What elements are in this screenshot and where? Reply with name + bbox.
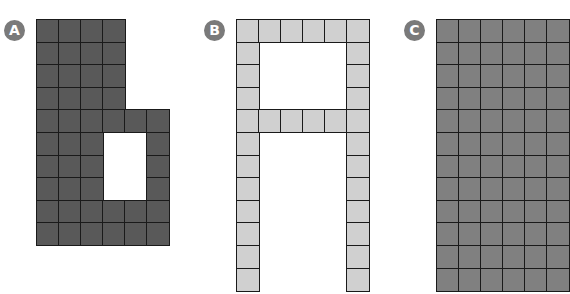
grid-cell <box>436 132 460 156</box>
grid-cell <box>502 200 526 224</box>
grid-cell <box>80 87 104 111</box>
grid-cell <box>546 268 570 292</box>
grid-cell <box>58 155 82 179</box>
grid-cell <box>302 19 326 43</box>
grid-cell <box>436 268 460 292</box>
grid-cell <box>458 19 482 43</box>
grid-cell <box>36 19 60 43</box>
grid-cell <box>480 109 504 133</box>
grid-cell <box>502 64 526 88</box>
grid-cell <box>502 19 526 43</box>
grid-cell <box>80 19 104 43</box>
grid-cell <box>546 132 570 156</box>
grid-cell <box>480 155 504 179</box>
grid-cell <box>346 222 370 246</box>
grid-cell <box>436 155 460 179</box>
grid-cell <box>524 42 548 66</box>
grid-cell <box>236 177 260 201</box>
grid-cell <box>458 132 482 156</box>
grid-cell <box>458 155 482 179</box>
grid-cell <box>524 19 548 43</box>
grid-cell <box>236 200 260 224</box>
grid-cell <box>436 245 460 269</box>
grid-cell <box>436 109 460 133</box>
grid-cell <box>480 177 504 201</box>
grid-cell <box>102 109 126 133</box>
grid-cell <box>36 222 60 246</box>
grid-cell <box>80 42 104 66</box>
grid-cell <box>58 109 82 133</box>
grid-cell <box>346 87 370 111</box>
grid-cell <box>102 42 126 66</box>
grid-cell <box>36 87 60 111</box>
grid-cell <box>346 200 370 224</box>
grid-cell <box>80 64 104 88</box>
grid-cell <box>346 268 370 292</box>
grid-cell <box>102 222 126 246</box>
grid-cell <box>58 222 82 246</box>
grid-cell <box>346 19 370 43</box>
grid-cell <box>502 245 526 269</box>
grid-cell <box>324 19 348 43</box>
grid-cell <box>58 87 82 111</box>
grid-cell <box>124 109 148 133</box>
grid-cell <box>524 268 548 292</box>
grid-cell <box>146 109 170 133</box>
grid-cell <box>58 132 82 156</box>
grid-cell <box>546 42 570 66</box>
grid-cell <box>146 222 170 246</box>
grid-cell <box>346 177 370 201</box>
grid-cell <box>102 87 126 111</box>
shape-label-a: A <box>4 20 25 41</box>
grid-cell <box>236 87 260 111</box>
grid-cell <box>524 200 548 224</box>
grid-cell <box>346 109 370 133</box>
grid-cell <box>36 155 60 179</box>
grid-cell <box>436 19 460 43</box>
grid-cell <box>236 19 260 43</box>
grid-cell <box>524 64 548 88</box>
grid-cell <box>480 19 504 43</box>
grid-cell <box>302 109 326 133</box>
grid-cell <box>458 64 482 88</box>
grid-cell <box>236 64 260 88</box>
grid-cell <box>324 109 348 133</box>
grid-cell <box>480 222 504 246</box>
grid-cell <box>502 42 526 66</box>
grid-cell <box>346 155 370 179</box>
grid-cell <box>436 64 460 88</box>
grid-cell <box>36 64 60 88</box>
grid-cell <box>80 200 104 224</box>
grid-cell <box>146 200 170 224</box>
grid-cell <box>502 132 526 156</box>
grid-cell <box>524 132 548 156</box>
grid-cell <box>480 42 504 66</box>
grid-cell <box>124 222 148 246</box>
grid-cell <box>436 200 460 224</box>
grid-cell <box>102 200 126 224</box>
grid-cell <box>124 200 148 224</box>
grid-cell <box>346 64 370 88</box>
grid-cell <box>436 222 460 246</box>
grid-cell <box>546 222 570 246</box>
grid-cell <box>80 177 104 201</box>
grid-cell <box>480 132 504 156</box>
grid-cell <box>36 109 60 133</box>
grid-cell <box>236 155 260 179</box>
grid-cell <box>436 177 460 201</box>
grid-cell <box>458 200 482 224</box>
grid-cell <box>546 109 570 133</box>
grid-cell <box>502 222 526 246</box>
grid-cell <box>58 177 82 201</box>
grid-cell <box>236 268 260 292</box>
grid-cell <box>546 155 570 179</box>
grid-cell <box>502 268 526 292</box>
grid-cell <box>36 42 60 66</box>
grid-cell <box>480 87 504 111</box>
grid-cell <box>236 132 260 156</box>
grid-cell <box>80 222 104 246</box>
grid-cell <box>458 177 482 201</box>
grid-cell <box>346 42 370 66</box>
grid-cell <box>58 64 82 88</box>
grid-cell <box>258 109 282 133</box>
